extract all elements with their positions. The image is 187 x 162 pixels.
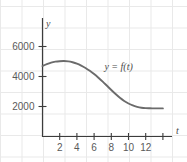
x-axis-tick-label: 12	[140, 142, 152, 153]
x-axis-tick-label: 6	[91, 142, 97, 153]
y-axis-tick-label: 2000	[12, 101, 35, 112]
y-axis-tick-label: 6000	[12, 41, 35, 52]
curve-equation-label: y = f(t)	[103, 61, 133, 73]
x-axis-tick-label: 2	[57, 142, 63, 153]
axis-lines	[43, 18, 173, 137]
function-curve	[43, 61, 163, 108]
y-axis-tick-label: 4000	[12, 71, 35, 82]
x-axis-label: t	[176, 125, 179, 136]
y-axis-label: y	[45, 18, 51, 29]
x-axis-tick-label: 10	[123, 142, 135, 153]
x-axis-tick-label: 4	[74, 142, 80, 153]
chart-figure: 200040006000 24681012 y t y = f(t)	[0, 0, 187, 162]
chart-svg: 200040006000 24681012 y t y = f(t)	[0, 0, 187, 162]
data-curve-group	[43, 61, 163, 108]
y-axis-ticks: 200040006000	[12, 41, 46, 112]
x-axis-tick-label: 8	[109, 142, 115, 153]
